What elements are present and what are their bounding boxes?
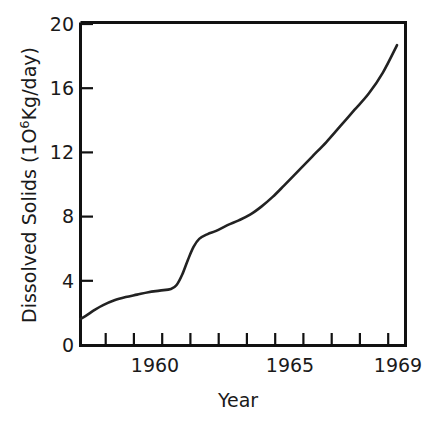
x-tick-label-1960: 1960 [131,354,179,376]
x-tick-label-1965: 1965 [266,354,314,376]
x-axis-title: Year [217,389,258,411]
series-line [81,45,398,319]
y-tick-label-12: 12 [50,141,74,163]
y-axis-ticks [81,24,94,281]
y-tick-label-0: 0 [62,334,74,356]
y-tick-label-8: 8 [62,205,74,227]
y-axis-title-superscript: 6 [17,120,32,128]
y-axis-title-main: Dissolved Solids (1O [18,129,40,323]
x-axis-ticks [106,333,389,346]
line-chart-canvas: 20 16 12 8 4 0 1960 1965 1969 Year Disso… [0,0,434,423]
x-tick-label-1969: 1969 [374,354,422,376]
chart-figure: 20 16 12 8 4 0 1960 1965 1969 Year Disso… [0,0,434,423]
data-series-dissolved-solids [81,45,398,319]
y-tick-label-4: 4 [62,270,74,292]
y-tick-label-16: 16 [50,77,74,99]
y-tick-labels: 20 16 12 8 4 0 [50,13,74,356]
y-tick-label-20: 20 [50,13,74,35]
x-tick-labels: 1960 1965 1969 [131,354,422,376]
y-axis-title-tail: Kg/day) [18,47,40,120]
y-axis-title: Dissolved Solids (1O6Kg/day) [17,47,40,323]
